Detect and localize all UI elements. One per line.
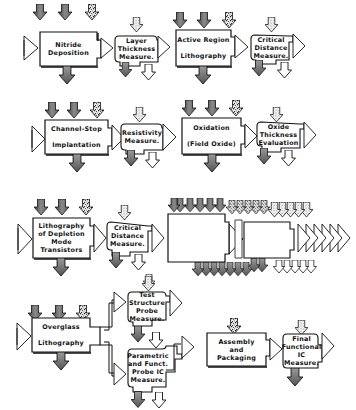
- output-arrow-icon: [53, 258, 69, 276]
- input-arrow-icon: [149, 332, 163, 348]
- input-arrow-icon: [79, 199, 93, 215]
- input-arrow-icon: [142, 276, 155, 291]
- process-box-overglass: [32, 318, 100, 352]
- flow-arrow-icon: [114, 292, 126, 312]
- flow-arrow-icon: [163, 124, 176, 150]
- output-arrow-icon: [282, 150, 296, 166]
- input-arrow-icon: [58, 4, 72, 20]
- process-box-nitride: [40, 32, 101, 66]
- output-arrow-icon: [142, 64, 156, 80]
- flow-arrow-icon: [245, 124, 257, 148]
- input-arrow-icon: [222, 12, 236, 28]
- flow-arrow-icon: [114, 363, 126, 385]
- measure-box-test-structure: [128, 292, 170, 326]
- measure-box-final-functional: [283, 334, 322, 368]
- input-arrow-icon: [67, 102, 81, 118]
- input-arrow-icon: [33, 4, 47, 20]
- output-arrow-icon: [152, 392, 166, 408]
- output-arrow-icon: [131, 392, 145, 408]
- measure-box-oxide-thickness: [257, 122, 304, 152]
- process-box-active-region: [176, 30, 235, 66]
- measure-box-critical-distance-1: [251, 35, 293, 64]
- flow-arrow-icon: [152, 224, 164, 252]
- output-arrow-icon: [278, 62, 292, 78]
- output-arrow-icon: [132, 254, 146, 270]
- input-arrow-icon: [173, 12, 187, 28]
- output-arrow-icon: [204, 154, 220, 172]
- input-arrow-icon: [85, 4, 99, 20]
- input-arrow-icon: [130, 17, 143, 32]
- flow-arrow-icon: [170, 290, 182, 316]
- output-arrow-icon: [131, 326, 145, 342]
- input-arrow-icon: [270, 107, 283, 122]
- measure-box-layer-thickness: [115, 36, 158, 66]
- flow-in-arrow-icon: [18, 224, 32, 254]
- input-arrow-icon: [133, 107, 146, 122]
- input-arrow-icon: [55, 199, 69, 215]
- input-arrow-icon: [197, 12, 211, 28]
- flow-arrow-icon: [101, 38, 113, 58]
- flow-arrow-icon: [182, 336, 194, 358]
- input-arrow-icon: [227, 318, 241, 334]
- flow-arrow-icon: [270, 338, 282, 360]
- measure-box-resistivity: [121, 124, 163, 154]
- flow-in-arrow-icon: [24, 36, 38, 60]
- input-arrow-icon: [182, 100, 196, 116]
- output-arrow-icon: [53, 352, 69, 370]
- process-box-depletion-litho: [33, 218, 94, 258]
- process-box-channel-stop: [45, 120, 112, 154]
- flow-arrow-icon: [94, 224, 106, 252]
- input-arrow-icon: [295, 320, 308, 335]
- row-2: [32, 100, 316, 172]
- process-box-assembly: [207, 333, 270, 366]
- process-flow-diagram: [0, 0, 356, 410]
- repeated-steps-stack: [168, 198, 350, 276]
- input-arrow-icon: [118, 205, 131, 220]
- input-arrow-icon: [205, 100, 219, 116]
- output-arrow-icon: [59, 66, 75, 84]
- input-arrow-icon: [34, 199, 48, 215]
- output-arrow-icon: [195, 66, 211, 84]
- input-arrow-icon: [90, 102, 104, 118]
- row-1: [24, 4, 305, 84]
- process-box-oxidation: [182, 118, 245, 154]
- input-arrow-icon: [229, 100, 243, 116]
- row-3: [18, 198, 350, 288]
- output-arrow-icon: [146, 152, 160, 168]
- flow-arrow-icon: [304, 122, 316, 148]
- measure-box-critical-distance-2: [107, 222, 152, 256]
- flow-arrow-icon: [235, 35, 248, 58]
- flow-arrow-icon: [293, 34, 305, 58]
- flow-in-arrow-icon: [17, 323, 31, 350]
- output-arrow-icon: [287, 368, 303, 386]
- flow-arrow-icon: [158, 36, 170, 58]
- output-arrow-icon: [69, 154, 85, 172]
- input-arrow-icon: [265, 17, 278, 32]
- flow-in-arrow-icon: [32, 126, 45, 152]
- row-4: [17, 276, 334, 408]
- input-arrow-icon: [45, 102, 59, 118]
- flow-arrow-icon: [322, 333, 334, 359]
